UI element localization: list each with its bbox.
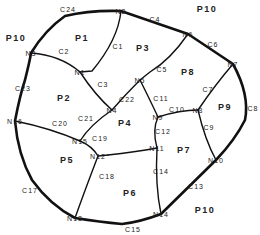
node-label-n11: N11	[149, 145, 164, 152]
region-label-p10: P10	[197, 4, 218, 14]
connection-label-c23: C23	[15, 85, 31, 92]
region-label-p9: P9	[218, 102, 232, 112]
connection-label-c6: C6	[208, 41, 219, 48]
connection-label-c1: C1	[113, 43, 124, 50]
node-label-n9: N9	[153, 114, 164, 121]
node-label-n6: N6	[183, 31, 194, 38]
node-label-n4: N4	[107, 107, 118, 114]
node-label-n13: N13	[67, 215, 83, 222]
connection-label-c21: C21	[78, 115, 94, 122]
connection-label-c12: C12	[155, 128, 171, 135]
node-label-n7: N7	[228, 61, 239, 68]
region-label-p4: P4	[118, 118, 132, 128]
region-label-p2: P2	[57, 93, 71, 103]
node-label-n8: N8	[193, 107, 204, 114]
connection-label-c10: C10	[169, 106, 185, 113]
node-label-n5: N5	[135, 77, 146, 84]
connection-label-c4: C4	[150, 16, 161, 23]
connection-label-c19: C19	[92, 135, 108, 142]
connection-label-c3: C3	[98, 81, 109, 88]
node-label-n15: N15	[72, 138, 88, 145]
connection-label-c5: C5	[157, 66, 168, 73]
connection-label-c22: C22	[119, 96, 135, 103]
region-label-p10: P10	[195, 205, 216, 215]
region-label-p3: P3	[136, 43, 150, 53]
connection-label-c18: C18	[99, 173, 115, 180]
connection-label-c11: C11	[153, 95, 168, 102]
node-label-n10: N10	[208, 157, 224, 164]
connection-label-c9: C9	[204, 124, 215, 131]
node-label-n1: N1	[75, 69, 86, 76]
node-label-n16: N16	[7, 118, 23, 125]
connection-label-c8: C8	[248, 105, 259, 112]
connection-label-c2: C2	[59, 48, 70, 55]
node-label-n12: N12	[90, 153, 106, 160]
connection-label-c24: C24	[60, 6, 76, 13]
connection-label-c13: C13	[188, 183, 204, 190]
connection-label-c20: C20	[52, 120, 68, 127]
region-label-p10: P10	[6, 33, 27, 43]
node-label-n3: N3	[26, 50, 37, 57]
node-label-n2: N2	[116, 8, 127, 15]
connection-label-c14: C14	[153, 168, 169, 175]
connection-label-c17: C17	[22, 187, 38, 194]
region-label-p8: P8	[181, 67, 195, 77]
region-label-p6: P6	[123, 188, 137, 198]
region-label-p5: P5	[60, 155, 74, 165]
connection-label-c7: C7	[203, 86, 214, 93]
region-label-p7: P7	[177, 145, 191, 155]
region-label-p1: P1	[75, 33, 89, 43]
node-label-n14: N14	[153, 211, 169, 218]
connection-label-c15: C15	[125, 226, 141, 233]
